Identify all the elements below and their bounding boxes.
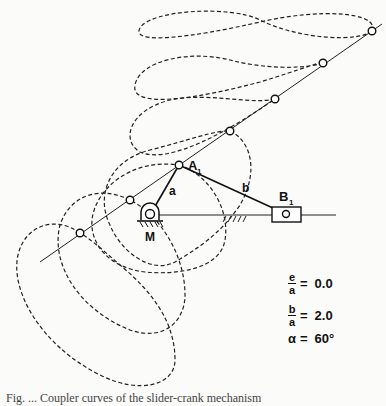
denominator: a [289,317,295,327]
joint-A1 [175,161,183,169]
label-A-sub: 1 [197,167,202,176]
coupler-point [271,95,279,103]
numerator: b [289,304,296,314]
equals-sign: = [300,308,308,323]
coupler-extension-line [40,24,382,262]
slider-joint-B1 [283,211,290,218]
param-b-over-a: b a = 2.0 [288,304,333,327]
label-link-b: b [242,181,249,195]
coupler-point [126,196,134,204]
param-alpha: α = 60° [288,331,334,346]
coupler-curve-6 [17,224,175,386]
param-e-over-a: e a = 0.0 [288,272,333,295]
label-M: M [145,230,155,244]
denominator: a [289,285,295,295]
numerator: e [289,272,295,282]
coupler-curve-3 [130,97,275,154]
label-B: B [279,189,288,204]
coupler-point [76,229,84,237]
coupler-point [319,59,327,67]
coupler-curve-2 [135,56,324,99]
alpha-symbol: α [288,331,296,346]
figure-caption: Fig. ... Coupler curves of the slider-cr… [6,391,261,406]
equals-sign: = [300,276,308,291]
fraction-b-over-a: b a [288,304,296,327]
value-b-over-a: 2.0 [315,308,333,323]
label-link-a: a [169,184,176,198]
coupler-point [226,127,234,135]
value-alpha: 60° [315,331,335,346]
equals-sign: = [300,331,308,346]
label-B-sub: 1 [289,198,294,207]
coupler-curve-1 [139,11,373,38]
fraction-e-over-a: e a [288,272,296,295]
value-e-over-a: 0.0 [315,276,333,291]
coupler-point [368,27,376,35]
ground-hatching [223,216,246,222]
coupler-curve-5 [58,193,185,333]
